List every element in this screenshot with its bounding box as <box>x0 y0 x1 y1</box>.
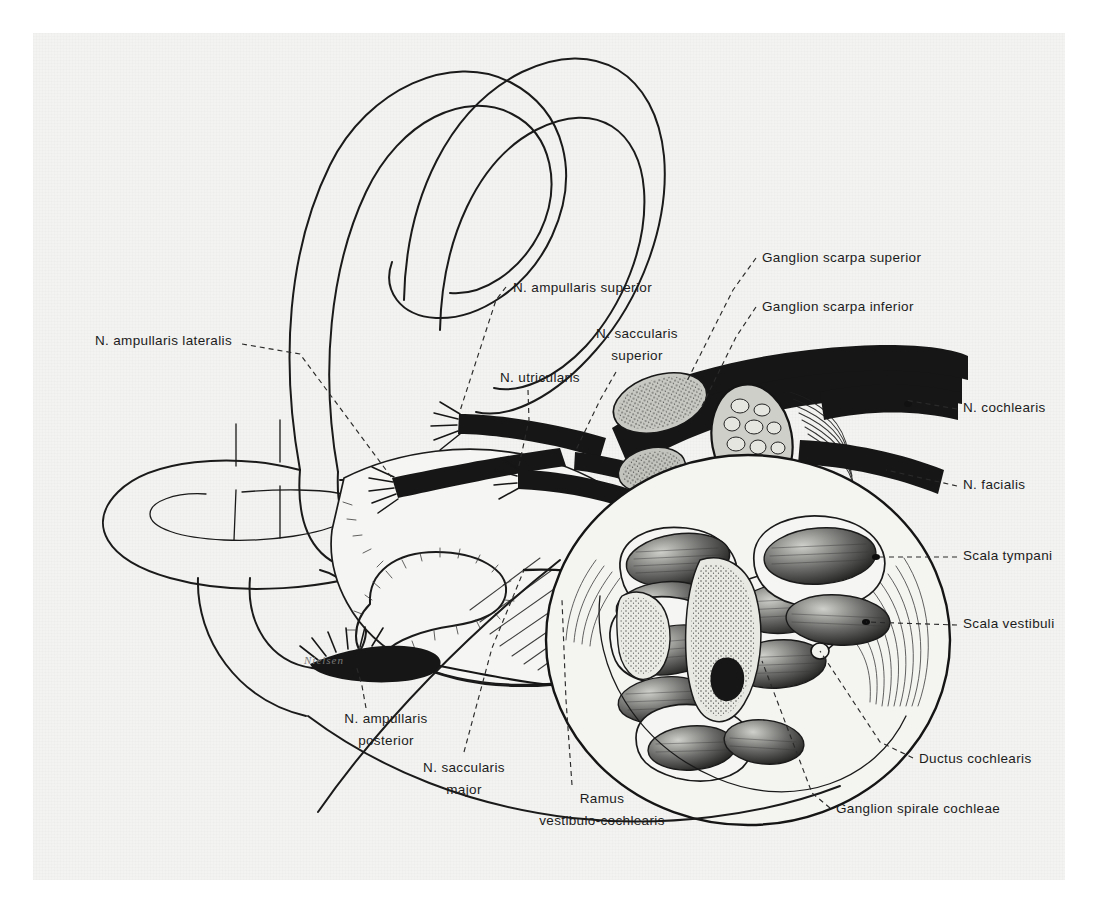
label-line: N. ampullaris superior <box>513 280 652 295</box>
lateral-semicircular-canal-inner <box>150 490 357 540</box>
label-scala-tympani: Scala tympani <box>963 548 1052 563</box>
label-n-saccularis-major: N. saccularismajor <box>423 760 505 797</box>
label-line: Scala tympani <box>963 548 1052 563</box>
label-line: Ganglion scarpa inferior <box>762 299 914 314</box>
label-line: Ganglion spirale cochleae <box>836 801 1000 816</box>
label-ganglion-spirale-cochleae: Ganglion spirale cochleae <box>836 801 1000 816</box>
n-cochlearis-trunk <box>820 385 958 421</box>
label-line: N. cochlearis <box>963 400 1046 415</box>
ampulla-limb <box>198 578 306 716</box>
illustration-page: N. ampullaris lateralisN. ampullaris sup… <box>0 0 1095 909</box>
label-line: Scala vestibuli <box>963 616 1055 631</box>
cochlea-group <box>546 455 950 825</box>
leader-line-n-ampullaris-lateralis <box>242 344 392 478</box>
label-n-ampullaris-posterior: N. ampullarisposterior <box>344 711 427 748</box>
label-ductus-cochlearis: Ductus cochlearis <box>919 751 1032 766</box>
label-line: vestibulo-cochlearis <box>539 813 665 828</box>
label-line: posterior <box>358 733 414 748</box>
label-n-ampullaris-lateralis: N. ampullaris lateralis <box>95 333 232 348</box>
label-line: N. saccularis <box>596 326 678 341</box>
label-line: N. utricularis <box>500 370 580 385</box>
scala-tympani-duct-spot <box>872 554 880 560</box>
label-line: N. saccularis <box>423 760 505 775</box>
n-ampullaris-superior-frayed-end <box>431 402 460 450</box>
label-ganglion-scarpa-superior: Ganglion scarpa superior <box>762 250 921 265</box>
label-n-facialis: N. facialis <box>963 477 1025 492</box>
label-line: major <box>446 782 482 797</box>
label-line: N. facialis <box>963 477 1025 492</box>
label-n-ampullaris-superior: N. ampullaris superior <box>513 280 652 295</box>
label-line: Ramus <box>580 791 625 806</box>
anatomy-artwork: N. ampullaris lateralisN. ampullaris sup… <box>0 0 1095 909</box>
label-line: superior <box>611 348 663 363</box>
label-n-cochlearis: N. cochlearis <box>963 400 1046 415</box>
label-line: Ganglion scarpa superior <box>762 250 921 265</box>
label-ganglion-scarpa-inferior: Ganglion scarpa inferior <box>762 299 914 314</box>
label-line: Ductus cochlearis <box>919 751 1032 766</box>
artist-signature: Nielsen <box>303 654 344 666</box>
label-n-utricularis: N. utricularis <box>500 370 580 385</box>
label-n-saccularis-superior: N. saccularissuperior <box>596 326 678 363</box>
label-scala-vestibuli: Scala vestibuli <box>963 616 1055 631</box>
label-line: N. ampullaris <box>344 711 427 726</box>
label-line: N. ampullaris lateralis <box>95 333 232 348</box>
cochlear-turn-upper-right <box>754 516 885 608</box>
leader-line-n-ampullaris-superior <box>459 287 506 414</box>
lateral-canal-septum-a <box>234 490 236 540</box>
n-cochlearis-cut-spot <box>904 401 912 407</box>
